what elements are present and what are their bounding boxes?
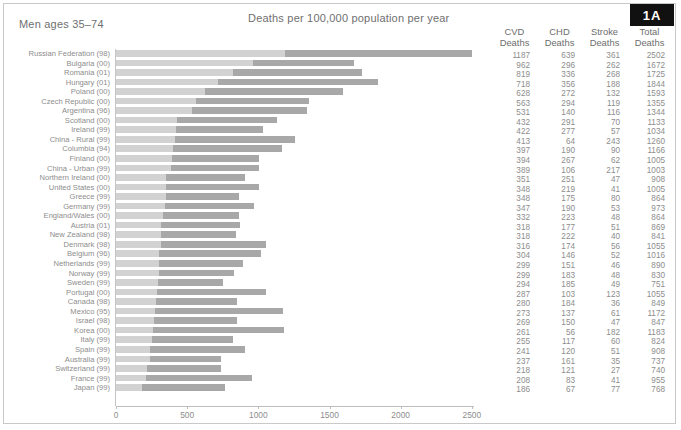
table-row: 21812127740 <box>492 366 672 376</box>
cell-total: 768 <box>627 385 672 395</box>
cell-stroke: 60 <box>582 337 627 347</box>
bar-segment-cvd <box>116 375 146 382</box>
cell-chd: 174 <box>537 242 582 252</box>
column-header-cvd: CVD Deaths <box>492 26 537 48</box>
cell-chd: 103 <box>537 290 582 300</box>
cell-cvd: 186 <box>492 385 537 395</box>
cell-total: 955 <box>627 376 672 386</box>
category-label: China - Urban (99) <box>0 164 112 174</box>
bar-segment-cvd <box>116 212 163 219</box>
category-label: Hungary (01) <box>0 78 112 88</box>
x-axis-line <box>116 406 474 407</box>
bar-segment-cvd <box>116 69 233 76</box>
bar-row <box>116 59 496 69</box>
bar-row <box>116 288 496 298</box>
table-row: 273137611172 <box>492 309 672 319</box>
cell-cvd: 394 <box>492 156 537 166</box>
cell-cvd: 348 <box>492 185 537 195</box>
bar-segment-noncvd <box>177 117 277 124</box>
cell-stroke: 361 <box>582 51 627 61</box>
category-label: Finland (00) <box>0 154 112 164</box>
bar-row <box>116 221 496 231</box>
cell-cvd: 318 <box>492 232 537 242</box>
bar-segment-noncvd <box>150 356 221 363</box>
bar-segment-cvd <box>116 270 159 277</box>
category-label: United States (00) <box>0 183 112 193</box>
table-row: 31822240841 <box>492 232 672 242</box>
cell-chd: 184 <box>537 299 582 309</box>
column-header-stroke: Stroke Deaths <box>582 26 627 48</box>
cell-cvd: 397 <box>492 146 537 156</box>
bar-segment-noncvd <box>166 184 260 191</box>
bar-segment-cvd <box>116 356 150 363</box>
bar-row <box>116 106 496 116</box>
bar-row <box>116 240 496 250</box>
category-label: Denmark (98) <box>0 240 112 250</box>
bar-row <box>116 297 496 307</box>
category-label: Columbia (94) <box>0 144 112 154</box>
bar-segment-noncvd <box>165 203 254 210</box>
table-row: 5311401161344 <box>492 108 672 118</box>
cell-total: 1055 <box>627 290 672 300</box>
category-label: Austria (01) <box>0 221 112 231</box>
bar-segment-noncvd <box>155 308 283 315</box>
cell-total: 737 <box>627 357 672 367</box>
bar-segment-cvd <box>116 317 154 324</box>
cell-cvd: 294 <box>492 280 537 290</box>
cell-stroke: 80 <box>582 194 627 204</box>
bar-segment-cvd <box>116 298 156 305</box>
bar-series-group <box>116 49 496 393</box>
cell-cvd: 318 <box>492 223 537 233</box>
cell-chd: 190 <box>537 146 582 156</box>
bar-segment-noncvd <box>158 279 223 286</box>
cell-cvd: 299 <box>492 261 537 271</box>
cell-stroke: 47 <box>582 318 627 328</box>
cell-chd: 267 <box>537 156 582 166</box>
bar-segment-cvd <box>116 165 171 172</box>
cell-cvd: 718 <box>492 80 537 90</box>
table-row: 316174561055 <box>492 242 672 252</box>
cell-cvd: 432 <box>492 118 537 128</box>
table-row: 26915047847 <box>492 318 672 328</box>
cell-cvd: 628 <box>492 89 537 99</box>
bar-row <box>116 249 496 259</box>
table-row: 25511760824 <box>492 337 672 347</box>
table-row: 261561821183 <box>492 328 672 338</box>
category-label: Argentina (96) <box>0 106 112 116</box>
cell-stroke: 123 <box>582 290 627 300</box>
category-label: Bulgaria (00) <box>0 59 112 69</box>
bar-row <box>116 364 496 374</box>
bar-segment-cvd <box>116 346 150 353</box>
cell-chd: 219 <box>537 185 582 195</box>
cell-total: 847 <box>627 318 672 328</box>
category-label: Romania (01) <box>0 68 112 78</box>
x-tick-label: 1500 <box>320 410 339 420</box>
bar-segment-cvd <box>116 107 192 114</box>
bar-segment-noncvd <box>163 212 239 219</box>
cell-stroke: 53 <box>582 204 627 214</box>
bar-segment-cvd <box>116 155 172 162</box>
cell-total: 841 <box>627 232 672 242</box>
category-label: Norway (99) <box>0 269 112 279</box>
cell-stroke: 217 <box>582 166 627 176</box>
cell-cvd: 208 <box>492 376 537 386</box>
cell-stroke: 36 <box>582 299 627 309</box>
bar-row <box>116 78 496 88</box>
cell-chd: 175 <box>537 194 582 204</box>
cell-chd: 64 <box>537 137 582 147</box>
cell-chd: 120 <box>537 347 582 357</box>
cell-chd: 185 <box>537 280 582 290</box>
table-body: 1187639361250296229626216728193362681725… <box>492 51 672 395</box>
category-axis-labels: Russian Federation (98)Bulgaria (00)Roma… <box>0 49 112 393</box>
cell-chd: 146 <box>537 251 582 261</box>
category-label: Czech Republic (00) <box>0 97 112 107</box>
cell-cvd: 962 <box>492 61 537 71</box>
bar-row <box>116 192 496 202</box>
bar-segment-cvd <box>116 260 159 267</box>
cell-stroke: 182 <box>582 328 627 338</box>
bar-row <box>116 202 496 212</box>
cell-total: 1344 <box>627 108 672 118</box>
category-label: New Zealand (98) <box>0 230 112 240</box>
bar-segment-noncvd <box>196 98 309 105</box>
bar-segment-noncvd <box>161 241 266 248</box>
